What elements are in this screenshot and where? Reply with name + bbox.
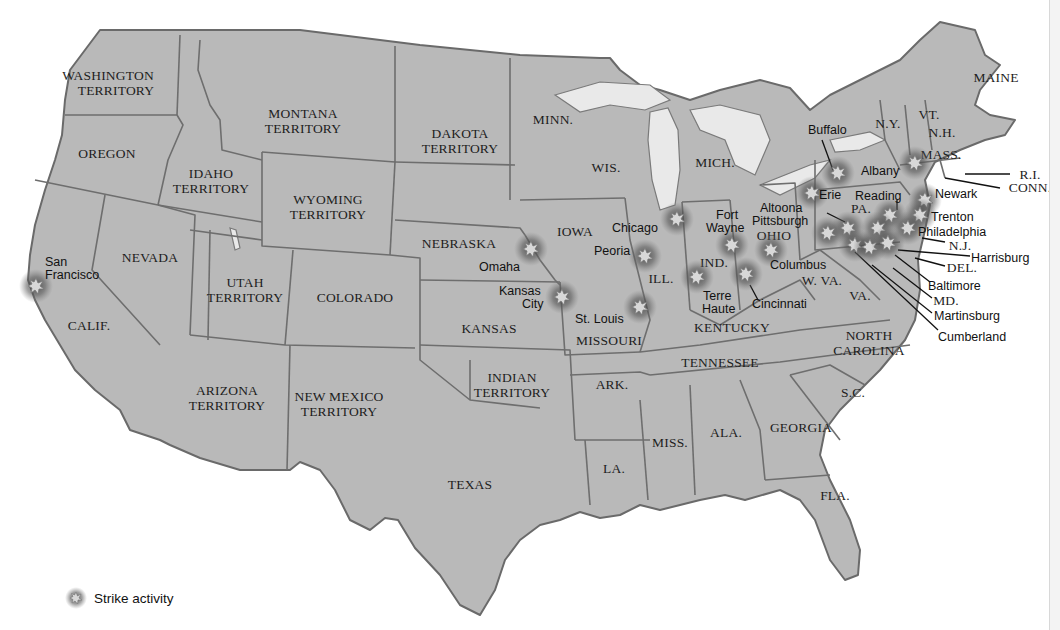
- svg-text:Chicago: Chicago: [612, 221, 658, 235]
- svg-text:MISS.: MISS.: [652, 435, 688, 450]
- svg-text:St. Louis: St. Louis: [575, 312, 624, 326]
- svg-text:S.C.: S.C.: [841, 385, 865, 400]
- svg-text:Newark: Newark: [935, 187, 978, 201]
- svg-text:DAKOTATERRITORY: DAKOTATERRITORY: [422, 126, 499, 156]
- svg-text:VA.: VA.: [849, 288, 871, 303]
- us-strike-map: WASHINGTONTERRITORY OREGON IDAHOTERRITOR…: [0, 0, 1060, 630]
- svg-text:Columbus: Columbus: [770, 258, 826, 272]
- svg-text:Omaha: Omaha: [479, 260, 520, 274]
- strike-burst-icon: [64, 586, 88, 610]
- svg-text:DEL.: DEL.: [947, 260, 977, 275]
- svg-text:WYOMINGTERRITORY: WYOMINGTERRITORY: [290, 192, 367, 222]
- svg-text:COLORADO: COLORADO: [317, 290, 394, 305]
- svg-text:N.Y.: N.Y.: [875, 116, 900, 131]
- svg-text:GEORGIA: GEORGIA: [770, 420, 832, 435]
- svg-text:MONTANATERRITORY: MONTANATERRITORY: [265, 106, 342, 136]
- svg-text:W. VA.: W. VA.: [802, 273, 842, 288]
- strike-albany: [898, 146, 932, 180]
- svg-text:Albany: Albany: [861, 164, 900, 178]
- svg-text:ARIZONATERRITORY: ARIZONATERRITORY: [189, 383, 266, 413]
- svg-text:Trenton: Trenton: [931, 210, 974, 224]
- svg-text:VT.: VT.: [919, 107, 940, 122]
- strike-chicago: [660, 202, 694, 236]
- svg-text:N.J.: N.J.: [949, 238, 972, 253]
- svg-text:Baltimore: Baltimore: [928, 279, 981, 293]
- strike-st-louis: [623, 290, 657, 324]
- strike-kansas-city: [545, 280, 579, 314]
- strike-cincinnati: [729, 257, 763, 291]
- svg-text:FLA.: FLA.: [820, 488, 850, 503]
- svg-text:TerreHaute: TerreHaute: [702, 289, 735, 316]
- svg-text:CALIF.: CALIF.: [68, 318, 111, 333]
- legend-label: Strike activity: [94, 591, 174, 606]
- svg-text:ARK.: ARK.: [596, 377, 629, 392]
- svg-text:Philadelphia: Philadelphia: [918, 225, 986, 239]
- svg-text:CONN.: CONN.: [1009, 180, 1052, 195]
- svg-text:NEVADA: NEVADA: [122, 250, 179, 265]
- us-landmass: [28, 22, 1015, 615]
- svg-text:ALA.: ALA.: [710, 425, 742, 440]
- svg-text:TEXAS: TEXAS: [448, 477, 493, 492]
- svg-text:NEBRASKA: NEBRASKA: [422, 236, 496, 251]
- svg-text:Erie: Erie: [819, 188, 841, 202]
- svg-text:MD.: MD.: [933, 293, 959, 308]
- legend: Strike activity: [64, 586, 174, 610]
- svg-text:Reading: Reading: [855, 189, 902, 203]
- svg-text:Martinsburg: Martinsburg: [934, 309, 1000, 323]
- svg-text:ILL.: ILL.: [648, 271, 673, 286]
- strike-baltimore: [871, 226, 905, 260]
- svg-text:LA.: LA.: [603, 461, 625, 476]
- svg-text:N.H.: N.H.: [928, 125, 955, 140]
- svg-text:AltoonaPittsburgh: AltoonaPittsburgh: [752, 201, 808, 228]
- svg-text:KANSAS: KANSAS: [461, 321, 516, 336]
- svg-text:MAINE: MAINE: [973, 70, 1018, 85]
- svg-text:WIS.: WIS.: [592, 160, 621, 175]
- svg-text:KENTUCKY: KENTUCKY: [694, 320, 770, 335]
- svg-text:MICH.: MICH.: [695, 155, 735, 170]
- strike-peoria: [628, 239, 662, 273]
- svg-text:Harrisburg: Harrisburg: [971, 251, 1029, 265]
- svg-text:Cincinnati: Cincinnati: [752, 297, 807, 311]
- svg-text:OREGON: OREGON: [78, 146, 135, 161]
- svg-text:MINN.: MINN.: [533, 112, 573, 127]
- svg-text:IOWA: IOWA: [557, 224, 593, 239]
- svg-text:Cumberland: Cumberland: [938, 330, 1006, 344]
- page-edge-strip: [1049, 0, 1060, 630]
- svg-text:MISSOURI: MISSOURI: [576, 333, 642, 348]
- svg-text:NEW MEXICOTERRITORY: NEW MEXICOTERRITORY: [294, 389, 383, 419]
- svg-text:Peoria: Peoria: [594, 244, 630, 258]
- svg-text:Buffalo: Buffalo: [808, 123, 847, 137]
- svg-text:TENNESSEE: TENNESSEE: [681, 355, 759, 370]
